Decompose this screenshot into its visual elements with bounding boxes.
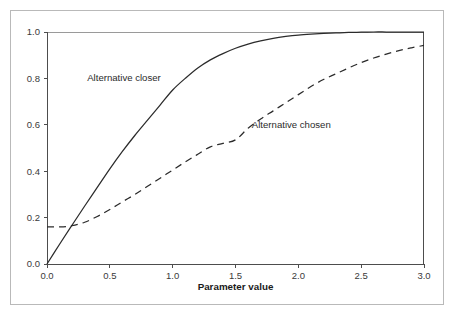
figure-root: 0.00.20.40.60.81.0 0.00.51.01.52.02.53.0… <box>0 0 456 320</box>
series-alternative-closer <box>47 32 424 264</box>
annotation-alternative-chosen: Alternative chosen <box>252 119 331 130</box>
x-tick-label: 3.0 <box>417 270 430 281</box>
x-tick-label: 2.5 <box>355 270 368 281</box>
y-tick-label: 0.8 <box>27 73 40 84</box>
annotation-alternative-closer: Alternative closer <box>87 72 161 83</box>
x-tick-label: 1.0 <box>166 270 179 281</box>
x-tick-label: 1.5 <box>229 270 242 281</box>
x-axis-ticks: 0.00.51.01.52.02.53.0 <box>40 264 430 281</box>
x-axis-title: Parameter value <box>198 281 274 292</box>
y-tick-label: 0.2 <box>27 212 40 223</box>
x-tick-label: 0.0 <box>40 270 53 281</box>
y-tick-label: 0.6 <box>27 119 40 130</box>
line-chart: 0.00.20.40.60.81.0 0.00.51.01.52.02.53.0… <box>0 0 456 320</box>
y-tick-label: 1.0 <box>27 26 40 37</box>
plot-area: 0.00.20.40.60.81.0 0.00.51.01.52.02.53.0… <box>27 26 431 292</box>
x-tick-label: 2.0 <box>292 270 305 281</box>
x-tick-label: 0.5 <box>103 270 116 281</box>
y-axis-ticks: 0.00.20.40.60.81.0 <box>27 26 47 269</box>
y-tick-label: 0.4 <box>27 166 40 177</box>
y-tick-label: 0.0 <box>27 258 40 269</box>
